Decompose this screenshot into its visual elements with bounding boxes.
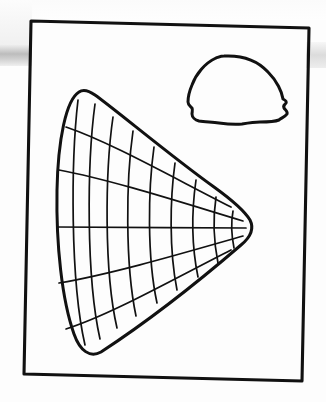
- page-canvas: Line drawing plate: [0, 0, 326, 402]
- grid-arc: [171, 163, 177, 290]
- dome-cap-outline: [188, 56, 287, 125]
- grid-arc: [128, 131, 136, 316]
- fan-grid-outline: [57, 90, 252, 354]
- grid-arc: [214, 197, 218, 263]
- grid-arc: [73, 100, 85, 345]
- fan-grid-radials: [57, 127, 246, 329]
- grid-arc: [232, 211, 234, 248]
- grid-arc: [149, 147, 157, 303]
- frame-border: [24, 21, 309, 381]
- grid-radial: [57, 227, 246, 228]
- dome-cap-figure: [188, 56, 287, 125]
- fan-grid-figure: [57, 90, 252, 354]
- fan-grid-arcs: [73, 100, 234, 345]
- line-drawing: [0, 0, 326, 402]
